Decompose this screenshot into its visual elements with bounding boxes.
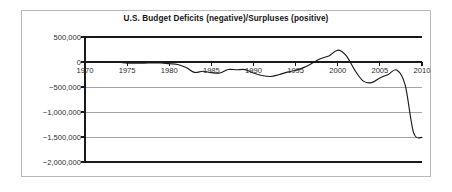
x-tick-label: 1995	[287, 66, 304, 75]
series-line	[85, 50, 422, 138]
x-axis-tick-labels: 197019751980198519901995200020052010	[85, 66, 422, 80]
data-series-line	[85, 37, 422, 162]
x-tick-label: 1980	[161, 66, 178, 75]
y-axis-tick-labels: 500,0000−500,000−1,000,000−1,500,000−2,0…	[20, 37, 81, 162]
y-tick-label: −1,500,000	[43, 133, 81, 142]
y-tick-label: 500,000	[54, 33, 81, 42]
x-tick-label: 2010	[414, 66, 431, 75]
y-tick-label: −500,000	[49, 83, 81, 92]
x-tick-label: 2000	[329, 66, 346, 75]
y-tick-label: −1,000,000	[43, 108, 81, 117]
plot-area	[85, 37, 422, 162]
x-tick-label: 1985	[203, 66, 220, 75]
x-tick-label: 1975	[119, 66, 136, 75]
chart-title: U.S. Budget Deficits (negative)/Surpluse…	[21, 14, 431, 23]
chart-figure: U.S. Budget Deficits (negative)/Surpluse…	[0, 0, 452, 192]
x-tick-label: 2005	[371, 66, 388, 75]
x-tick-label: 1990	[245, 66, 262, 75]
y-tick-label: −2,000,000	[43, 158, 81, 167]
x-tick-label: 1970	[77, 66, 94, 75]
